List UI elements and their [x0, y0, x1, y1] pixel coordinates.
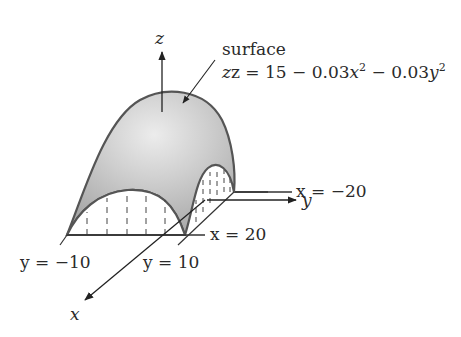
- x-axis-label: x: [70, 304, 80, 324]
- left-base-edge: [60, 235, 67, 245]
- eq-var-y: y: [428, 62, 439, 82]
- z-axis-label: z: [154, 28, 165, 48]
- boundary-x-pos: x = 20: [210, 224, 266, 244]
- diagram-canvas: z y x surface zz = 15 − 0.03x2 − 0.03y2 …: [0, 0, 461, 337]
- boundary-y-pos: y = 10: [142, 252, 199, 272]
- surface-label: surface: [222, 39, 286, 59]
- eq-var-x: x: [350, 62, 360, 82]
- boundary-x-neg: x = −20: [296, 181, 367, 201]
- surface-diagram: z y x surface zz = 15 − 0.03x2 − 0.03y2 …: [0, 0, 461, 337]
- eq-part-1: z = 15 − 0.03: [231, 62, 350, 82]
- eq-part-2: − 0.03: [366, 62, 429, 82]
- eq-exp-2: 2: [439, 61, 446, 74]
- eq-exp-1: 2: [359, 61, 366, 74]
- boundary-y-neg: y = −10: [19, 252, 91, 272]
- surface-equation: zz = 15 − 0.03x2 − 0.03y2: [221, 61, 446, 82]
